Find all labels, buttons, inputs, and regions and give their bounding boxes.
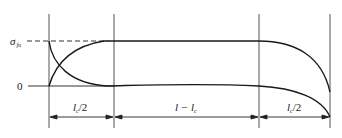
zero-label: 0 <box>17 80 23 92</box>
segment-label-right: lc/2 <box>287 101 301 114</box>
segment-label-middle: l − lc <box>175 101 197 114</box>
sigma-fu-label: σfu <box>10 35 21 48</box>
stress-distribution-diagram: σfu 0 lc/2 l − lc lc/2 <box>0 0 342 138</box>
dimension-arrows <box>50 115 329 119</box>
segment-label-left: lc/2 <box>73 101 87 114</box>
